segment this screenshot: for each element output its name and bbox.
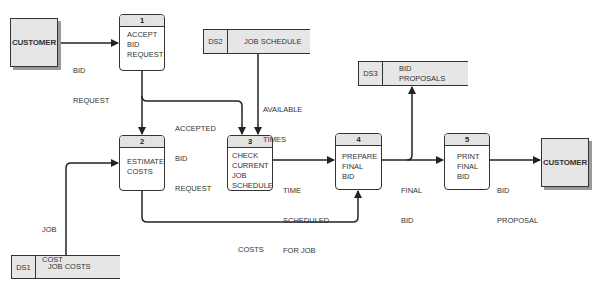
flow-label-line: COSTS (238, 245, 264, 255)
process-number: 2 (120, 136, 164, 148)
data-flow-diagram: CUSTOMER CUSTOMER 1 ACCEPT BID REQUEST 2… (0, 0, 601, 287)
flow-label-line: BID (401, 216, 422, 226)
entity-label: CUSTOMER (543, 158, 587, 167)
process-label-line: FINAL (457, 162, 489, 172)
data-store-ds3: DS3 BID PROPOSALS (358, 61, 468, 86)
store-id: DS2 (204, 30, 228, 53)
flow-label-line: SCHEDULED (283, 216, 329, 226)
flow-label-costs: COSTS (238, 225, 264, 275)
process-label-line: FINAL (342, 162, 381, 172)
process-5: 5 PRINT FINAL BID (444, 133, 490, 190)
store-name-line: BID (399, 64, 412, 74)
process-label-line: ACCEPT (127, 30, 164, 40)
process-label-line: BID (127, 40, 164, 50)
flow-label-job-cost: JOB COST (42, 205, 63, 285)
flow-label-line: BID (73, 66, 109, 76)
flow-final-bid-to-ds3 (407, 87, 412, 160)
flow-label-line: FINAL (401, 186, 422, 196)
store-id: DS1 (12, 256, 36, 278)
process-label: PRINT FINAL BID (445, 146, 489, 182)
process-label-line: BID (342, 172, 381, 182)
flow-label-line: BID (497, 186, 538, 196)
process-number: 4 (336, 134, 381, 146)
flow-label-line: REQUEST (73, 96, 109, 106)
entity-label: CUSTOMER (12, 38, 56, 47)
flow-label-line: COST (42, 255, 63, 265)
flow-label-line: JOB (42, 225, 63, 235)
process-label-line: ESTIMATE (127, 157, 164, 167)
flow-label-bid-proposal: BID PROPOSAL (497, 166, 538, 246)
flow-job-cost (66, 163, 118, 255)
process-label-line: JOB (232, 171, 272, 181)
flow-label-time-scheduled-for-job: TIME SCHEDULED FOR JOB (283, 166, 329, 276)
process-number: 1 (120, 15, 164, 27)
process-label-line: REQUEST (127, 50, 164, 60)
process-4: 4 PREPARE FINAL BID (335, 133, 382, 190)
process-label-line: SCHEDULE (232, 181, 272, 191)
process-label-line: COSTS (127, 167, 164, 177)
process-1: 1 ACCEPT BID REQUEST (119, 14, 165, 71)
flow-label-line: AVAILABLE (263, 105, 302, 115)
process-label: ESTIMATE COSTS (120, 148, 164, 177)
data-store-ds2: DS2 JOB SCHEDULE (203, 29, 310, 54)
store-name: BID PROPOSALS (383, 62, 468, 85)
flow-label-line: REQUEST (175, 184, 216, 194)
flow-label-final-bid: FINAL BID (401, 166, 422, 246)
process-label: ACCEPT BID REQUEST (120, 27, 164, 60)
flow-label-line: FOR JOB (283, 246, 329, 256)
flow-label-line: TIME (283, 186, 329, 196)
flow-label-line: PROPOSAL (497, 216, 538, 226)
store-id: DS3 (359, 62, 383, 85)
process-number: 5 (445, 134, 489, 146)
process-label-line: BID (457, 172, 489, 182)
data-store-ds1: DS1 JOB COSTS (11, 255, 120, 279)
external-entity-customer-sink: CUSTOMER (541, 138, 589, 187)
process-label: PREPARE FINAL BID (336, 146, 381, 182)
flow-label-bid-request: BID REQUEST (73, 46, 109, 126)
store-name-line: PROPOSALS (399, 74, 445, 84)
process-2: 2 ESTIMATE COSTS (119, 135, 165, 191)
store-name: JOB SCHEDULE (228, 30, 310, 53)
external-entity-customer-source: CUSTOMER (10, 18, 58, 67)
flow-label-line: BID (175, 154, 216, 164)
flow-label-line: ACCEPTED (175, 124, 216, 134)
process-label-line: PREPARE (342, 152, 381, 162)
flow-label-available-times: AVAILABLE TIMES (263, 85, 302, 165)
process-label-line: PRINT (457, 152, 489, 162)
flow-label-accepted-bid-request: ACCEPTED BID REQUEST (175, 104, 216, 214)
flow-label-line: TIMES (263, 135, 302, 145)
